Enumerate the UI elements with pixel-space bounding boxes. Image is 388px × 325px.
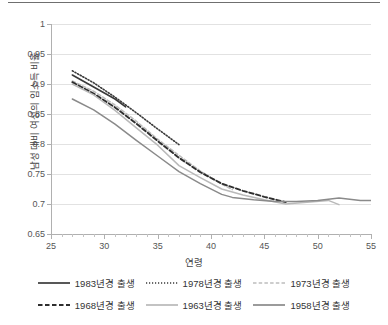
x-axis-tick-minor [136,234,137,237]
x-axis-tick-label: 45 [259,241,269,251]
plot-area [51,24,371,234]
legend-label: 1968년경 출생 [75,298,135,312]
x-axis-tick-minor [350,234,351,237]
x-axis-tick-major [211,234,212,239]
x-axis-tick-label: 35 [153,241,163,251]
y-axis-tick-label: 1 [0,19,45,29]
legend-row: 1968년경 출생1963년경 출생1958년경 출생 [0,294,388,316]
x-axis-tick-minor [222,234,223,237]
line-chart: 0.650.70.750.80.850.90.951 2530354045505… [0,0,388,325]
x-axis-tick-minor [62,234,63,237]
x-axis-tick-minor [328,234,329,237]
legend-swatch-line [253,279,285,287]
legend-swatch-line [146,279,178,287]
x-axis-tick-label: 40 [206,241,216,251]
x-axis-tick-minor [339,234,340,237]
x-axis-tick-minor [115,234,116,237]
y-axis-tick-label: 0.65 [0,229,45,239]
x-axis-tick-major [264,234,265,239]
series-line [72,75,125,107]
x-axis-tick-minor [168,234,169,237]
legend-label: 1973년경 출생 [290,276,350,290]
legend-swatch-line [146,301,178,309]
y-axis-tick-label: 0.7 [0,199,45,209]
x-axis-tick-minor [147,234,148,237]
x-axis-tick-minor [243,234,244,237]
x-axis-tick-minor [179,234,180,237]
x-axis-tick-label: 30 [99,241,109,251]
x-axis-tick-minor [83,234,84,237]
legend-item[interactable]: 1973년경 출생 [253,276,350,290]
x-axis-tick-minor [286,234,287,237]
x-axis-tick-minor [296,234,297,237]
x-axis-tick-minor [126,234,127,237]
x-axis-tick-minor [307,234,308,237]
x-axis-title: 연령 [0,255,388,269]
legend-label: 1958년경 출생 [290,298,350,312]
chart-legend: 1983년경 출생1978년경 출생1973년경 출생1968년경 출생1963… [0,272,388,316]
x-axis-tick-minor [72,234,73,237]
legend-item[interactable]: 1958년경 출생 [253,298,350,312]
legend-label: 1963년경 출생 [183,298,243,312]
x-axis-tick-major [51,234,52,239]
legend-label: 1983년경 출생 [75,276,135,290]
legend-item[interactable]: 1963년경 출생 [146,298,243,312]
y-axis-title: 남성 대비 여성의 임소득 비율 [27,41,41,181]
legend-item[interactable]: 1983년경 출생 [38,276,135,290]
legend-item[interactable]: 1978년경 출생 [146,276,243,290]
x-axis-tick-minor [232,234,233,237]
x-axis-tick-minor [275,234,276,237]
legend-label: 1978년경 출생 [183,276,243,290]
legend-swatch-line [253,301,285,309]
x-axis-tick-minor [200,234,201,237]
x-axis-tick-minor [254,234,255,237]
x-axis-tick-label: 25 [46,241,56,251]
legend-item[interactable]: 1968년경 출생 [38,298,135,312]
legend-swatch-line [38,301,70,309]
x-axis-tick-minor [360,234,361,237]
series-lines [51,24,371,234]
x-axis-tick-label: 55 [366,241,376,251]
x-axis-tick-major [104,234,105,239]
x-axis-tick-major [371,234,372,239]
x-axis-tick-minor [190,234,191,237]
x-axis-tick-label: 50 [313,241,323,251]
x-axis-tick-major [318,234,319,239]
x-axis-tick-major [158,234,159,239]
legend-row: 1983년경 출생1978년경 출생1973년경 출생 [0,272,388,294]
series-line [72,99,371,202]
series-line [72,82,285,202]
x-axis-tick-minor [94,234,95,237]
legend-swatch-line [38,279,70,287]
